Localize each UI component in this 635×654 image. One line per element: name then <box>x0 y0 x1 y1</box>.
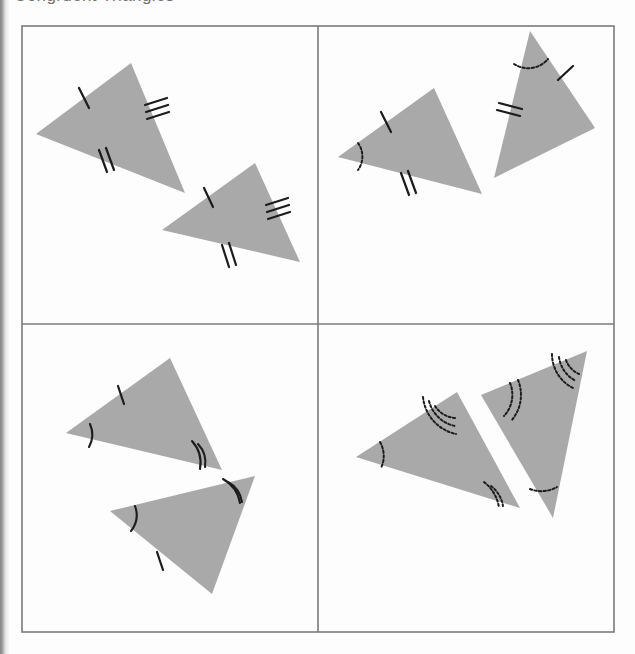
quadrant-hit-top-right[interactable] <box>319 27 613 323</box>
quadrant-hit-bottom-left[interactable] <box>23 325 317 631</box>
worksheet-page: Congruent Triangles <box>0 0 635 654</box>
quadrant-hit-bottom-right[interactable] <box>319 325 613 631</box>
quadrant-hit-top-left[interactable] <box>23 27 317 323</box>
